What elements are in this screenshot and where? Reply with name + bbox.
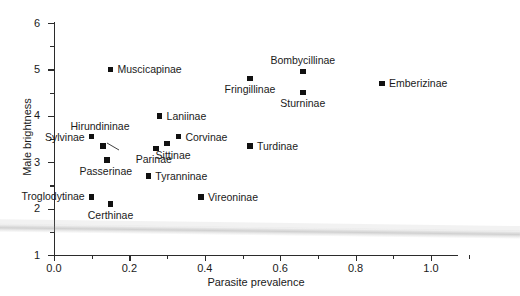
data-point-marker[interactable] (157, 113, 163, 119)
data-point-label: Laniinae (167, 110, 207, 121)
data-point-marker[interactable] (247, 143, 253, 149)
data-point-marker[interactable] (104, 157, 110, 163)
data-point-label: Fringillinae (225, 84, 276, 95)
data-point-label: Troglodytinae (21, 191, 84, 202)
data-point-marker[interactable] (89, 134, 95, 140)
data-point-label: Parinae (136, 154, 172, 165)
data-point-marker[interactable] (146, 173, 152, 179)
data-point-label: Sturninae (280, 98, 325, 109)
data-point-marker[interactable] (89, 194, 95, 200)
data-point-label: Vireoninae (208, 192, 258, 203)
data-point-label: Muscicapinae (118, 64, 182, 75)
data-point-marker[interactable] (176, 134, 182, 140)
data-point-marker[interactable] (164, 141, 170, 147)
data-point-label: Sylvinae (45, 131, 85, 142)
data-point-marker[interactable] (247, 76, 253, 82)
data-point-marker[interactable] (108, 67, 114, 73)
data-point-label: Hirundininae (71, 121, 130, 132)
data-point-label: Bombycillinae (270, 55, 335, 66)
data-point-label: Passerinae (80, 166, 133, 177)
data-point-label: Certhinae (88, 210, 134, 221)
data-point-label: Corvinae (185, 131, 227, 142)
data-point-marker[interactable] (300, 90, 306, 96)
data-point-marker[interactable] (100, 143, 106, 149)
data-point-marker[interactable] (379, 81, 385, 87)
data-point-label: Emberizinae (389, 78, 447, 89)
data-point-marker[interactable] (300, 69, 306, 75)
data-point-label: Tyranninae (155, 171, 207, 182)
data-point-label: Turdinae (257, 141, 298, 152)
data-point-marker[interactable] (198, 194, 204, 200)
data-point-marker[interactable] (108, 201, 114, 207)
